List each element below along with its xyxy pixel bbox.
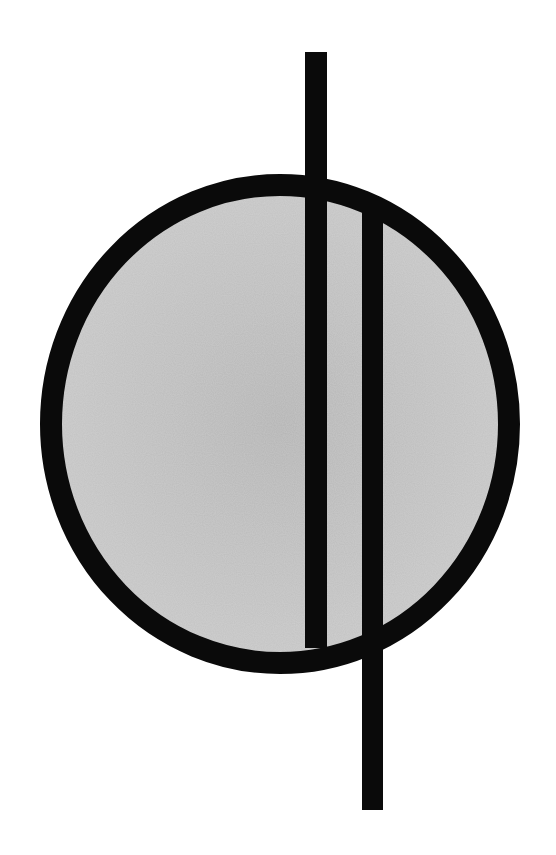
left-vertical-bar [305, 52, 327, 648]
right-vertical-bar [362, 212, 383, 810]
diagram-canvas [0, 0, 556, 855]
